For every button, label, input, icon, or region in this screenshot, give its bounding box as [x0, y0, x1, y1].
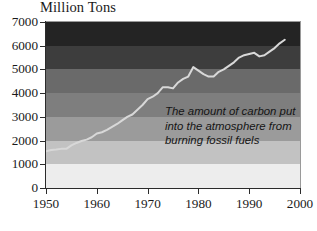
x-axis-tick-mark — [300, 188, 301, 194]
y-axis-tick-mark — [40, 117, 46, 118]
x-axis-tick-mark — [249, 188, 250, 194]
y-axis-tick-mark — [40, 46, 46, 47]
plot-border-right — [300, 21, 301, 189]
x-axis-line — [45, 188, 301, 189]
x-axis-tick-mark — [46, 188, 47, 194]
x-axis-tick-label: 1980 — [173, 196, 223, 212]
y-axis-tick-label: 3000 — [0, 109, 38, 125]
y-axis-tick-label: 0 — [0, 180, 38, 196]
plot-border-top — [46, 21, 301, 22]
y-axis-tick-mark — [40, 69, 46, 70]
chart-annotation: The amount of carbon put into the atmosp… — [165, 104, 311, 148]
y-axis-tick-label: 7000 — [0, 14, 38, 30]
y-axis-tick-label: 1000 — [0, 156, 38, 172]
y-axis-tick-label: 5000 — [0, 61, 38, 77]
x-axis-tick-mark — [148, 188, 149, 194]
x-axis-tick-label: 1950 — [21, 196, 71, 212]
y-axis-tick-mark — [40, 141, 46, 142]
chart-figure: Million Tons The amount of carbon put in… — [0, 0, 317, 231]
y-axis-tick-mark — [40, 93, 46, 94]
y-axis-tick-label: 6000 — [0, 38, 38, 54]
y-axis-tick-label: 4000 — [0, 85, 38, 101]
x-axis-tick-label: 2000 — [275, 196, 317, 212]
y-axis-tick-mark — [40, 164, 46, 165]
x-axis-tick-label: 1960 — [72, 196, 122, 212]
x-axis-tick-label: 1990 — [224, 196, 274, 212]
x-axis-tick-mark — [198, 188, 199, 194]
y-axis-tick-mark — [40, 22, 46, 23]
y-axis-tick-label: 2000 — [0, 133, 38, 149]
x-axis-tick-mark — [97, 188, 98, 194]
x-axis-tick-label: 1970 — [123, 196, 173, 212]
chart-title: Million Tons — [40, 0, 116, 16]
